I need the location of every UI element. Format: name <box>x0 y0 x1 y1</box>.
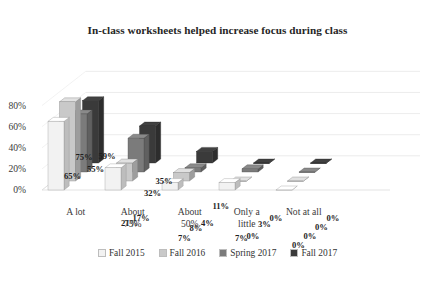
legend-label: Fall 2017 <box>301 248 337 258</box>
bar-spring-2017-4 <box>299 168 320 173</box>
legend-swatch-icon <box>290 249 298 257</box>
y-axis-tick: 40% <box>0 143 26 153</box>
chart-title: In-class worksheets helped increase focu… <box>0 24 435 36</box>
chart-svg <box>28 62 420 204</box>
legend-label: Spring 2017 <box>230 248 276 258</box>
bar-value-label: 55% <box>87 165 104 174</box>
y-axis-tick: 60% <box>0 122 26 132</box>
x-axis-tick-line1: A lot <box>47 206 105 218</box>
y-axis-tick: 20% <box>0 164 26 174</box>
bar-value-label: 32% <box>144 189 161 198</box>
bar-value-label: 59% <box>99 152 116 161</box>
x-axis-tick-line1: About <box>104 206 162 218</box>
x-axis-labels: A lotAbout75%About50%Only alittleNot at … <box>0 206 435 240</box>
x-axis-tick: Not at all <box>275 206 333 218</box>
chart-container: In-class worksheets helped increase focu… <box>0 0 435 286</box>
bar-spring-2017-3 <box>242 165 263 172</box>
bar-fall-2015-1 <box>105 164 126 190</box>
x-axis-tick-line1: Only a <box>218 206 276 218</box>
chart-legend: Fall 2015Fall 2016Spring 2017Fall 2017 <box>0 248 435 258</box>
legend-swatch-icon <box>98 249 106 257</box>
plot-area: 80%60%40%20%0% 59%35%11%0%0%55%32%4%3%0%… <box>28 62 420 204</box>
legend-item-fall-2016[interactable]: Fall 2016 <box>159 248 206 258</box>
x-axis-tick: About50% <box>161 206 219 229</box>
legend-item-fall-2017[interactable]: Fall 2017 <box>290 248 337 258</box>
legend-label: Fall 2015 <box>109 248 145 258</box>
y-axis-tick: 80% <box>0 101 26 111</box>
bar-fall-2017-3 <box>254 159 275 164</box>
legend-swatch-icon <box>219 249 227 257</box>
x-axis-tick: About75% <box>104 206 162 229</box>
bar-fall-2017-2 <box>197 147 218 163</box>
x-axis-tick: Only alittle <box>218 206 276 229</box>
bar-value-label: 35% <box>156 177 173 186</box>
bar-fall-2016-4 <box>288 177 309 182</box>
bar-fall-2015-3 <box>219 179 240 190</box>
x-axis-tick-line2: 50% <box>161 218 219 230</box>
bar-value-label: 75% <box>76 153 93 162</box>
x-axis-tick-line1: Not at all <box>275 206 333 218</box>
bars-group <box>48 97 332 191</box>
legend-swatch-icon <box>159 249 167 257</box>
x-axis-tick-line2: little <box>218 218 276 230</box>
legend-item-spring-2017[interactable]: Spring 2017 <box>219 248 276 258</box>
x-axis-tick-line2: 75% <box>104 218 162 230</box>
x-axis-tick-line1: About <box>161 206 219 218</box>
legend-item-fall-2015[interactable]: Fall 2015 <box>98 248 145 258</box>
bar-value-label: 65% <box>64 172 81 181</box>
y-axis-tick: 0% <box>0 185 26 195</box>
legend-label: Fall 2016 <box>170 248 206 258</box>
x-axis-tick: A lot <box>47 206 105 218</box>
bar-fall-2017-4 <box>311 159 332 164</box>
